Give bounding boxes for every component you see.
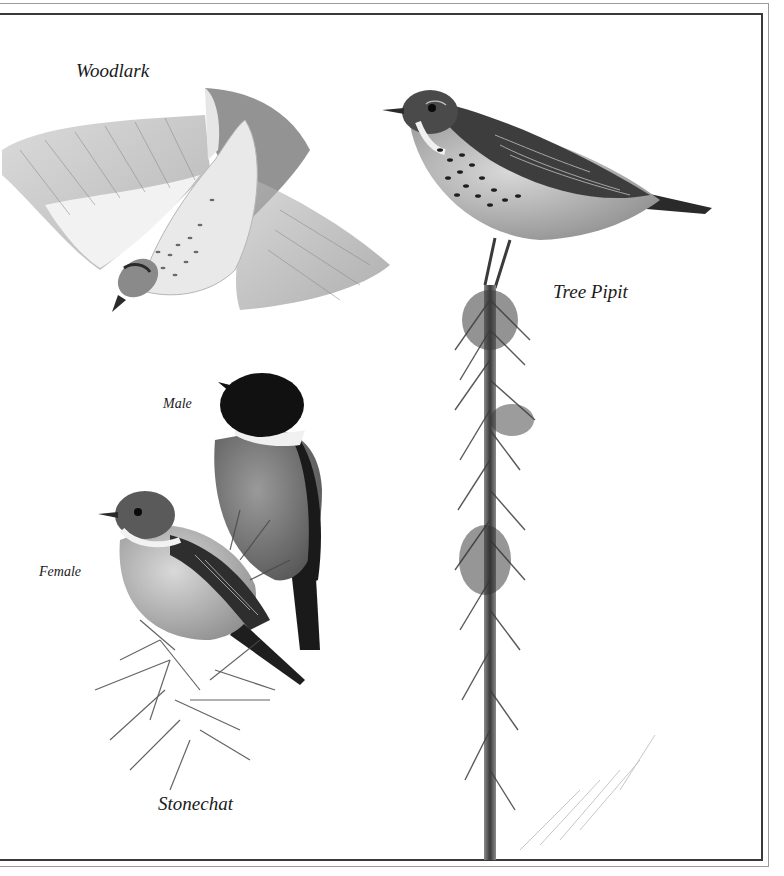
bird-plate-illustration — [0, 0, 784, 876]
woodlark-bird — [2, 88, 390, 312]
stonechat-label: Stonechat — [158, 793, 233, 815]
woodlark-label: Woodlark — [76, 60, 149, 82]
stonechat-female-label: Female — [39, 564, 81, 580]
tree-pipit-label: Tree Pipit — [553, 281, 628, 303]
conifer-stem — [455, 285, 655, 860]
tree-pipit-bird — [382, 90, 712, 288]
stonechat-male-label: Male — [163, 396, 192, 412]
